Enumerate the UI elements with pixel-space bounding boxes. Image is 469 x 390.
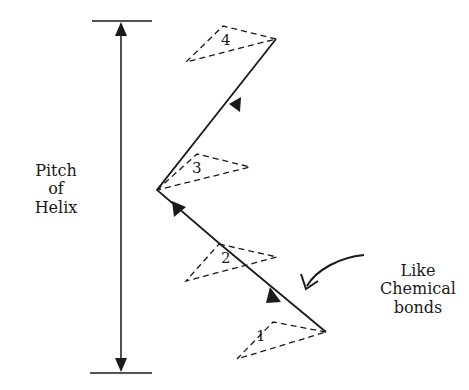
- unit-1-number: 1: [256, 327, 266, 345]
- direction-arrow-3-icon: [229, 97, 241, 112]
- unit-3-number: 3: [192, 159, 202, 177]
- dashed-units: [157, 26, 326, 359]
- annotation-line3: bonds: [378, 299, 458, 317]
- annotation-line1: Like: [378, 262, 458, 280]
- pitch-label-line2: of: [16, 180, 96, 198]
- pitch-label-line3: Helix: [16, 199, 96, 217]
- unit-1-triangle: [237, 322, 326, 359]
- unit-4-number: 4: [221, 31, 231, 49]
- pitch-arrow-down-icon: [115, 358, 127, 372]
- pitch-of-helix-label: Pitch of Helix: [16, 162, 96, 217]
- unit-2-number: 2: [221, 249, 231, 267]
- annotation-arrow: [301, 255, 364, 289]
- direction-arrow-2-icon: [172, 201, 186, 217]
- pitch-label-line1: Pitch: [16, 162, 96, 180]
- chemical-bonds-label: Like Chemical bonds: [378, 262, 458, 317]
- pitch-measure: [90, 21, 152, 373]
- helix-backbone: [157, 39, 326, 332]
- unit-2-triangle: [186, 244, 277, 281]
- annotation-line2: Chemical: [378, 280, 458, 298]
- pitch-arrow-up-icon: [115, 22, 127, 36]
